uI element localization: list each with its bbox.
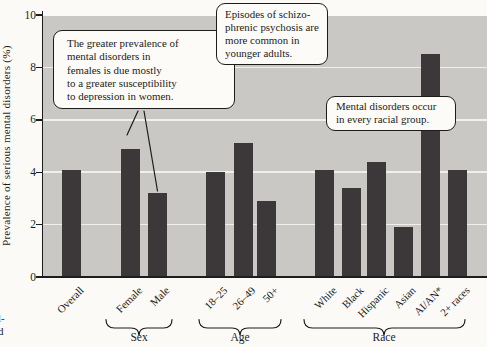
callout-females-susceptibility: The greater prevalence of mental disorde… [53,30,235,109]
callout-line: females is due mostly [67,64,225,77]
callout-line: The greater prevalence of [67,37,225,50]
callout-line: mental disorders in [67,50,225,63]
race-group-brace [304,320,465,336]
callout-line: Mental disorders occur [336,100,446,113]
callout-line: more common in [225,34,319,47]
age-group-brace [199,320,281,336]
callout-racial-groups: Mental disorders occur in every racial g… [326,96,456,131]
callout-line: in every racial group. [336,113,446,126]
callout-younger-adults: Episodes of schizo- phrenic psychosis ar… [216,3,328,65]
leader-line-male [144,111,158,191]
callout-line: to a greater susceptibility [67,77,225,90]
callout-line: phrenic psychosis are [225,21,319,34]
sex-group-brace [106,320,172,336]
bar-chart-figure: 0246810 Prevalence of serious mental dis… [0,0,487,347]
callout-line: Episodes of schizo- [225,8,319,21]
callout-line: to depression in women. [67,90,225,103]
leader-line-female [127,111,138,135]
callout-line: younger adults. [225,47,319,60]
